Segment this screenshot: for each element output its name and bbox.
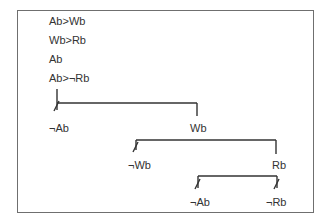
branch1-left-label: ¬Ab [49,122,69,134]
branch2-left-label: ¬Wb [128,159,151,171]
truth-tree-lines [0,0,329,223]
branch1-right-label: Wb [190,122,207,134]
branch3-left-label: ¬Ab [190,196,210,208]
branch3-right-label: ¬Rb [266,196,287,208]
branch2-right-label: Rb [272,159,286,171]
